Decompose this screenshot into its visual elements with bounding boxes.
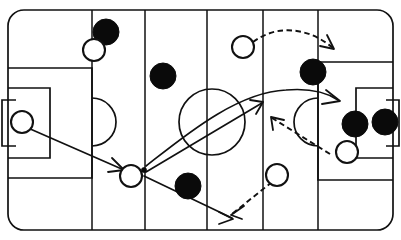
field-boundary xyxy=(8,10,393,230)
light-team-player-L6 xyxy=(11,111,33,133)
ball-group xyxy=(141,167,146,172)
pitch-markings-group xyxy=(2,10,399,230)
light-team-group xyxy=(11,36,358,187)
center-circle xyxy=(179,89,245,155)
dark-team-player-D4 xyxy=(300,59,326,85)
tactics-diagram-canvas xyxy=(0,0,401,240)
left-penalty-arc xyxy=(92,98,116,146)
arrow-head-A4 xyxy=(219,212,233,224)
light-team-player-L4 xyxy=(266,164,288,186)
light-team-player-L2 xyxy=(232,36,254,58)
dark-team-player-D3 xyxy=(175,173,201,199)
pass-or-ball-path-M3 xyxy=(146,103,262,172)
dark-team-player-D6 xyxy=(372,109,398,135)
pass-or-ball-path-M1 xyxy=(28,128,124,170)
light-team-player-L3 xyxy=(120,165,142,187)
light-team-player-L1 xyxy=(83,39,105,61)
ball-marker xyxy=(141,167,146,172)
dark-team-player-D5 xyxy=(342,111,368,137)
light-team-player-L5 xyxy=(336,141,358,163)
player-run-path-M6 xyxy=(272,118,330,154)
dark-team-player-D2 xyxy=(150,63,176,89)
soccer-pitch-svg xyxy=(0,0,401,240)
